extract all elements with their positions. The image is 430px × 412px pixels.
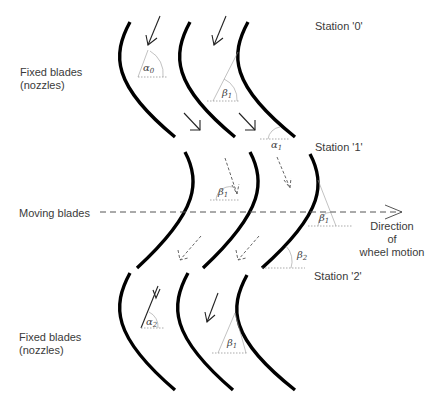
station-2-label: Station '2' [314,270,362,283]
fixed-blade-6 [237,275,295,390]
svg-text:α0: α0 [143,62,155,75]
direction-line2: of [356,233,428,246]
svg-text:β1: β1 [226,337,237,350]
moving-blade-3 [262,154,318,268]
bottom-inlet-arrow [205,293,218,322]
fixed-blade-2 [180,22,235,137]
beta1-top-angle: β1 [207,52,240,101]
station-1-label: Station '1' [315,141,363,154]
alpha0-angle: α0 [138,50,167,77]
svg-text:β1: β1 [318,212,329,225]
fixed-blades-top-line2: (nozzles) [20,79,82,92]
svg-text:β1: β1 [217,186,228,199]
station-0-label: Station '0' [315,20,363,33]
moving-exit-arrows [178,236,259,260]
fixed-blades-top-label: Fixed blades (nozzles) [20,66,82,92]
fixed-blades-top-line1: Fixed blades [20,66,82,79]
moving-blades-label: Moving blades [19,207,90,220]
fixed-blades-row-2 [120,273,295,390]
moving-blades-row [137,152,318,268]
alpha2-angle: α2 [141,286,165,329]
svg-text:α1: α1 [271,139,282,152]
fixed-blades-bottom-line2: (nozzles) [19,344,81,357]
fixed-blades-row-1 [120,22,295,137]
direction-of-wheel-motion-label: Direction of wheel motion [356,220,428,259]
svg-text:β2: β2 [296,249,308,262]
moving-blade-2 [203,152,258,268]
svg-text:β1: β1 [221,87,232,100]
fixed-blade-3 [238,22,295,137]
direction-line1: Direction [356,220,428,233]
fixed-blade-5 [178,273,233,390]
direction-line3: wheel motion [356,246,428,259]
beta2-angle: β2 [262,246,308,268]
fixed-blades-bottom-label: Fixed blades (nozzles) [19,331,81,357]
moving-blade-1 [137,152,193,268]
fixed-blades-bottom-line1: Fixed blades [19,331,81,344]
fixed-blade-4 [120,273,175,390]
